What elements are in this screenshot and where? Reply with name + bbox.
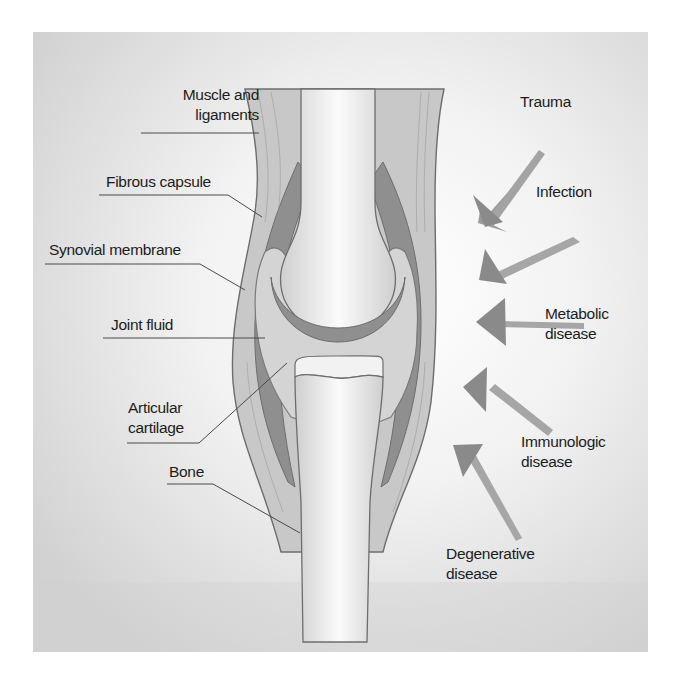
label-line: Fibrous capsule [106,172,211,192]
label-line: Degenerative [446,544,535,564]
label-line: Trauma [520,92,571,112]
label-synovial-membrane: Synovial membrane [49,240,181,260]
label-line: Joint fluid [111,315,173,335]
label-articular-cartilage: Articular cartilage [128,398,184,438]
label-trauma: Trauma [520,92,571,112]
label-line: Articular [128,398,184,418]
label-line: disease [521,452,606,472]
label-line: Immunologic [521,432,606,452]
label-bone: Bone [169,462,204,482]
label-infection: Infection [536,182,592,202]
label-line: Bone [169,462,204,482]
label-line: disease [446,564,535,584]
label-line: Muscle and [131,85,259,105]
label-line: Synovial membrane [49,240,181,260]
label-joint-fluid: Joint fluid [111,315,173,335]
label-immunologic-disease: Immunologic disease [521,432,606,472]
label-line: cartilage [128,418,184,438]
label-fibrous-capsule: Fibrous capsule [106,172,211,192]
label-metabolic-disease: Metabolic disease [545,304,609,344]
joint-diagram-panel: Muscle and ligaments Fibrous capsule Syn… [33,32,648,652]
label-muscle-ligaments: Muscle and ligaments [131,85,259,125]
label-line: Metabolic [545,304,609,324]
label-line: ligaments [131,105,259,125]
label-line: disease [545,324,609,344]
label-degenerative-disease: Degenerative disease [446,544,535,584]
label-line: Infection [536,182,592,202]
